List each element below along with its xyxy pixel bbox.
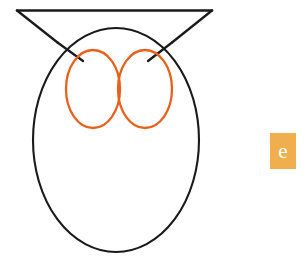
letter-badge: e — [270, 133, 296, 169]
owl-illustration — [0, 0, 306, 259]
letter-badge-text: e — [278, 141, 287, 162]
drawing-canvas: e — [0, 0, 306, 259]
